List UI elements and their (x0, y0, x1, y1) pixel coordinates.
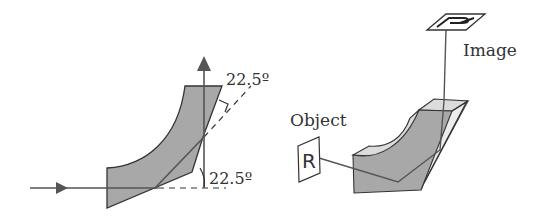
diagram-canvas: 22.5º 22.5º R Object Image (0, 0, 546, 219)
right-angle-mark (219, 100, 228, 112)
image-plate (427, 14, 485, 30)
angle-label-bottom: 22.5º (209, 169, 252, 188)
outgoing-ray-arrow-icon (197, 56, 211, 71)
object-plate: R (298, 137, 320, 182)
incoming-ray-arrow-icon (56, 182, 68, 194)
image-label: Image (463, 40, 517, 60)
right-figure-3d-prism (353, 99, 468, 193)
angle-label-top: 22.5º (226, 70, 269, 89)
object-glyph: R (302, 149, 316, 173)
object-label: Object (290, 110, 347, 130)
